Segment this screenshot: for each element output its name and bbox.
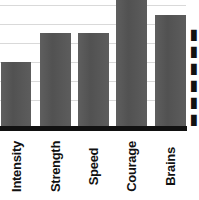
bar-chart: Intensity Strength Speed Courage Brains … — [0, 0, 199, 200]
x-axis-labels: Intensity Strength Speed Courage Brains — [0, 131, 186, 200]
x-label-intensity: Intensity — [1, 131, 31, 200]
legend-entry: ▮ — [190, 28, 199, 41]
x-label-text: Brains — [163, 147, 178, 186]
x-label-courage: Courage — [116, 131, 147, 200]
legend-entry: ▮ — [190, 113, 199, 126]
plot-area — [0, 0, 186, 128]
bar-courage[interactable] — [116, 0, 147, 128]
bar-intensity[interactable] — [1, 62, 31, 128]
x-label-text: Intensity — [9, 141, 24, 192]
bar-speed[interactable] — [78, 33, 109, 128]
x-label-brains: Brains — [155, 131, 186, 200]
legend-entry: ▮ — [190, 96, 199, 109]
bar-strength[interactable] — [40, 33, 71, 128]
x-label-strength: Strength — [40, 131, 71, 200]
bar-brains[interactable] — [155, 15, 186, 128]
legend-entry: ▮ — [190, 79, 199, 92]
x-label-speed: Speed — [78, 131, 109, 200]
legend-entry: ▮ — [190, 45, 199, 58]
x-label-text: Courage — [124, 141, 139, 192]
legend-entry: ▮ — [190, 62, 199, 75]
legend-strip-cropped: ▮ ▮ ▮ ▮ ▮ ▮ — [188, 0, 199, 130]
x-label-text: Speed — [86, 148, 101, 186]
bar-series — [0, 0, 186, 128]
x-label-text: Strength — [48, 141, 63, 192]
